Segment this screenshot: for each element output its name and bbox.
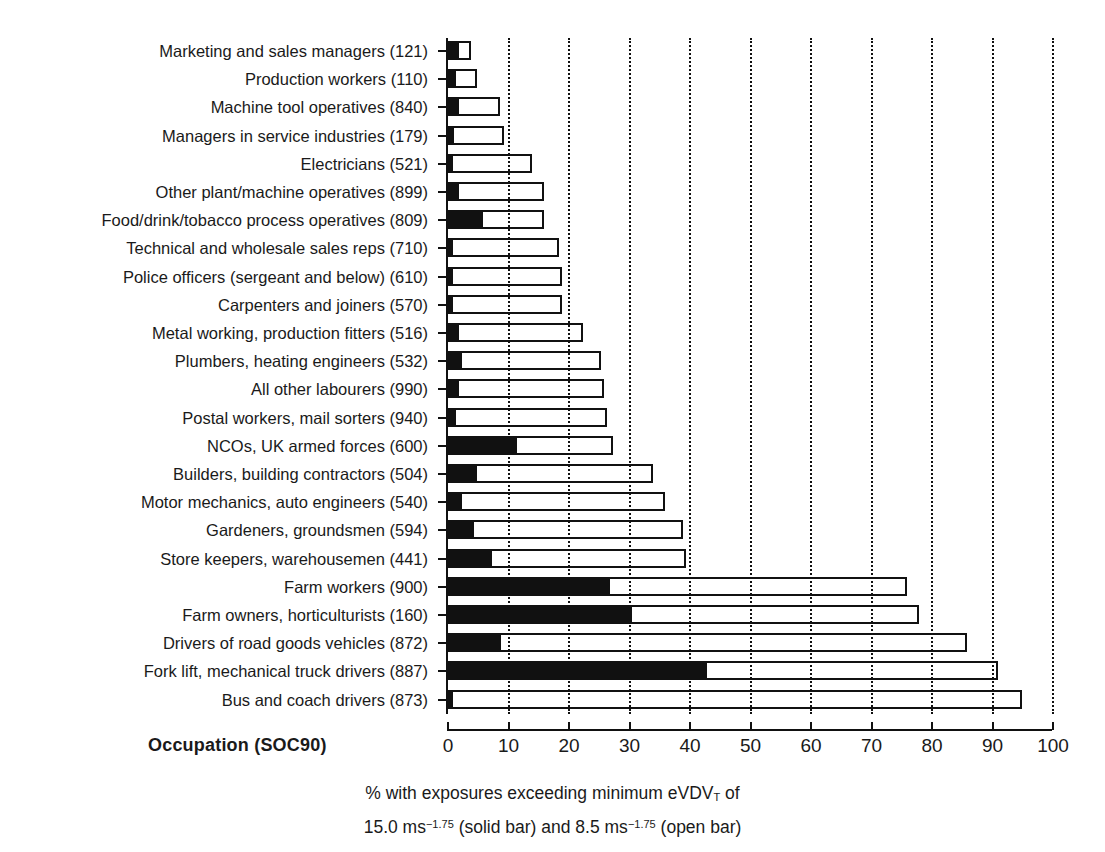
y-axis-tick-label: Production workers (110) [245,66,428,92]
bar-open [447,408,607,427]
x-axis-tick [931,722,933,730]
y-axis-tick-label: Managers in service industries (179) [162,123,428,149]
y-axis-tick-label: Postal workers, mail sorters (940) [182,405,428,431]
y-axis-tick [438,473,446,475]
bar-open [447,154,532,173]
x-axis-tick [629,722,631,730]
bar-solid [447,267,453,286]
bar-open [447,690,1022,709]
y-axis-tick [438,332,446,334]
bar-solid [447,238,453,257]
x-axis-tick [810,722,812,730]
x-axis-tick [871,722,873,730]
bar-solid [447,126,454,145]
y-axis-labels: Marketing and sales managers (121)Produc… [0,38,438,714]
gridline-70 [871,38,873,714]
y-axis-tick [438,78,446,80]
bar-open [447,295,562,314]
y-axis-tick-label: Police officers (sergeant and below) (61… [123,264,428,290]
y-axis-tick-label: Store keepers, warehousemen (441) [160,546,428,572]
y-axis-tick [438,501,446,503]
bar-solid [447,605,632,624]
bar-open [447,351,601,370]
x-axis-tick [508,722,510,730]
bar-solid [447,69,456,88]
bar-solid [447,661,707,680]
x-axis-tick-label: 50 [740,735,761,757]
y-axis-tick-label: Food/drink/tobacco process operatives (8… [101,207,428,233]
bar-open [447,379,604,398]
bar-open [447,464,653,483]
bar-solid [447,577,610,596]
y-axis-tick [438,50,446,52]
bar-open [447,238,559,257]
bar-open [447,492,665,511]
y-axis-tick [438,304,446,306]
x-axis-tick [1052,722,1054,730]
x-axis-tick-label: 20 [558,735,579,757]
gridline-90 [992,38,994,714]
y-axis-tick-label: Builders, building contractors (504) [173,461,428,487]
bar-open [447,323,583,342]
bar-solid [447,492,462,511]
y-axis-tick [438,445,446,447]
y-axis-title: Occupation (SOC90) [148,735,327,756]
x-axis-title-line-1: % with exposures exceeding minimum eVDVT… [0,780,1105,811]
y-axis-tick [438,388,446,390]
y-axis-tick [438,163,446,165]
y-axis-tick-label: Motor mechanics, auto engineers (540) [141,489,428,515]
x-axis-tick [750,722,752,730]
gridline-30 [629,38,631,714]
bar-solid [447,182,459,201]
y-axis-tick-label: All other labourers (990) [251,376,428,402]
y-axis-tick-label: Electricians (521) [301,151,428,177]
x-axis-tick [447,722,449,730]
bar-solid [447,379,459,398]
y-axis-tick [438,191,446,193]
bar-solid [447,154,453,173]
x-axis-tick-label: 10 [498,735,519,757]
y-axis-tick [438,586,446,588]
y-axis-tick [438,417,446,419]
bar-solid [447,41,459,60]
bar-solid [447,351,462,370]
y-axis-tick-label: Bus and coach drivers (873) [222,687,428,713]
y-axis-tick-label: NCOs, UK armed forces (600) [207,433,428,459]
gridline-60 [810,38,812,714]
y-axis-tick [438,360,446,362]
x-axis-tick-label: 40 [679,735,700,757]
bar-solid [447,464,477,483]
gridline-100 [1052,38,1054,714]
y-axis-tick [438,106,446,108]
y-axis-tick-label: Fork lift, mechanical truck drivers (887… [144,658,428,684]
bar-solid [447,210,483,229]
gridline-50 [750,38,752,714]
x-axis-tick-label: 70 [861,735,882,757]
bar-solid [447,690,453,709]
y-axis-tick [438,529,446,531]
gridline-40 [689,38,691,714]
y-axis-tick [438,558,446,560]
y-axis-tick [438,135,446,137]
y-axis-tick-label: Technical and wholesale sales reps (710) [126,235,428,261]
y-axis-tick [438,614,446,616]
y-axis-tick-label: Farm owners, horticulturists (160) [182,602,428,628]
gridline-20 [568,38,570,714]
bar-open [447,182,544,201]
bar-solid [447,549,492,568]
bar-open [447,267,562,286]
y-axis-tick-label: Other plant/machine operatives (899) [156,179,428,205]
gridline-80 [931,38,933,714]
y-axis-tick-label: Machine tool operatives (840) [211,94,428,120]
x-axis-title-line-2: 15.0 ms−1.75 (solid bar) and 8.5 ms−1.75… [0,811,1105,841]
y-axis-tick-label: Plumbers, heating engineers (532) [175,348,428,374]
x-axis-tick-label: 80 [921,735,942,757]
y-axis-tick-label: Metal working, production fitters (516) [152,320,428,346]
x-axis-title: % with exposures exceeding minimum eVDVT… [0,780,1105,841]
x-axis-tick [568,722,570,730]
bar-solid [447,97,459,116]
bar-solid [447,436,517,455]
x-axis-tick-label: 0 [443,735,454,757]
bar-open [447,633,967,652]
y-axis-tick [438,699,446,701]
